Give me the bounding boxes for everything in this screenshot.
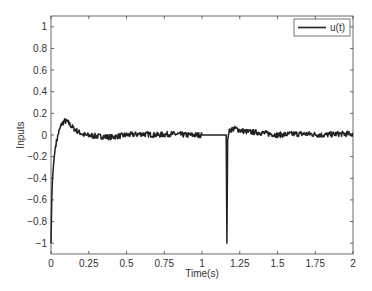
y-tick-label: −0.6: [27, 194, 47, 205]
x-tick-label: 0.75: [155, 258, 175, 269]
x-tick-label: 0.5: [120, 258, 134, 269]
y-tick-label: 1: [41, 21, 47, 32]
y-tick-label: 0: [41, 130, 47, 141]
x-tick-label: 0.25: [79, 258, 99, 269]
y-tick-label: 0.8: [33, 43, 47, 54]
y-tick-label: 0.6: [33, 65, 47, 76]
x-tick-label: 1.75: [306, 258, 326, 269]
x-tick-label: 1.25: [230, 258, 250, 269]
x-tick-label: 0: [48, 258, 54, 269]
y-tick-label: 0.4: [33, 86, 47, 97]
y-tick-label: −1: [36, 238, 48, 249]
x-tick-label: 2: [350, 258, 356, 269]
legend: u(t): [294, 19, 350, 36]
y-tick-label: −0.2: [27, 151, 47, 162]
line-chart: 00.250.50.7511.251.51.752 −1−0.8−0.6−0.4…: [0, 0, 372, 291]
y-axis-label: Inputs: [15, 121, 26, 148]
y-tick-label: −0.8: [27, 216, 47, 227]
x-axis-label: Time(s): [185, 268, 219, 279]
y-tick-label: 0.2: [33, 108, 47, 119]
legend-label: u(t): [330, 22, 345, 33]
y-tick-label: −0.4: [27, 173, 47, 184]
x-tick-label: 1.5: [271, 258, 285, 269]
